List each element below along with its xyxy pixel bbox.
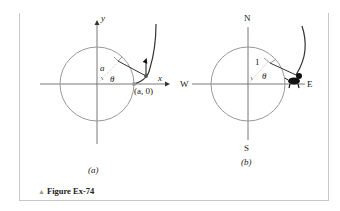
compass-west: W [180,79,189,89]
compass-south: S [244,143,249,153]
compass-north: N [244,13,251,23]
figure-caption: ▲Figure Ex-74 [38,186,94,196]
panel-a-diagram [40,20,170,144]
figure-graphics [0,0,340,211]
compass-east: E [307,79,313,89]
y-axis-label: y [101,13,105,23]
triangle-marker-icon: ▲ [38,188,45,196]
point-label: (a, 0) [134,86,153,96]
angle-label-b: θ [262,71,266,81]
panel-b-label: (b) [241,157,252,167]
caption-text: Figure Ex-74 [47,186,94,196]
x-axis-label: x [158,73,162,83]
radius-label-b: 1 [255,57,260,67]
angle-label-a: θ [110,74,114,84]
radius-label-a: a [100,63,105,73]
dog-icon [285,73,302,88]
panel-a-label: (a) [88,165,99,175]
panel-b-diagram [192,26,305,140]
